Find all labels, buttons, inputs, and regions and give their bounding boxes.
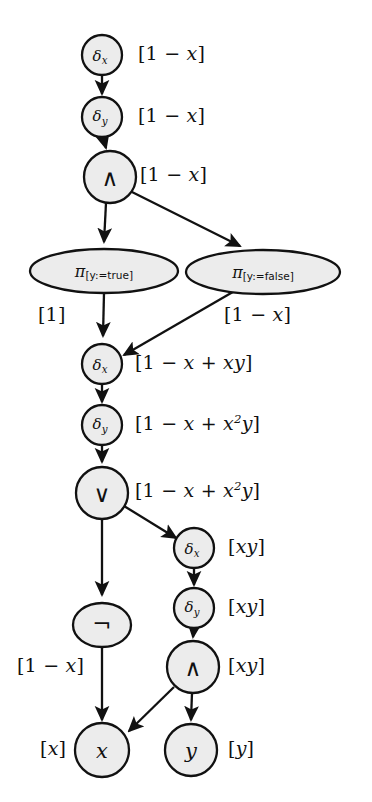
node-delta-y-3[interactable]: δy [174, 588, 214, 628]
edge-or-delta_x3 [124, 506, 176, 538]
annotation-delta-y-3: [xy] [228, 597, 265, 616]
annotation-var-y: [y] [228, 739, 254, 758]
annotation-and-2: [xy] [228, 656, 265, 675]
node-label-and-2: ∧ [185, 655, 202, 681]
node-label-and-1: ∧ [102, 165, 119, 191]
node-not[interactable]: ¬ [73, 603, 131, 647]
node-var-x[interactable]: x [75, 723, 129, 777]
node-delta-x-2[interactable]: δx [82, 344, 122, 384]
node-pi-y-false[interactable]: π[y:=false] [186, 250, 340, 294]
annotation-delta-y-1: [1 − x] [138, 106, 205, 125]
edge-delta_y-and1 [103, 137, 106, 148]
edge-and1-pi-false [130, 191, 240, 246]
edge-pi-false-delta_x2 [124, 289, 238, 355]
annotation-not: [1 − x] [17, 656, 84, 675]
annotation-pi-y-false: [1 − x] [224, 305, 291, 324]
edge-and2-var_x [129, 687, 174, 731]
annotation-var-x: [x] [40, 739, 66, 758]
node-and-1[interactable]: ∧ [84, 151, 136, 203]
node-or[interactable]: ∨ [76, 467, 128, 519]
annotation-or: [1 − x + x2y] [135, 481, 260, 500]
annotation-delta-x-3: [xy] [228, 537, 265, 556]
node-var-y[interactable]: y [165, 724, 217, 776]
annotation-delta-y-2: [1 − x + x2y] [135, 414, 260, 433]
node-delta-x-1[interactable]: δx [82, 35, 122, 75]
node-label-var-y: y [184, 739, 198, 763]
node-label-var-x: x [96, 739, 108, 763]
node-delta-x-3[interactable]: δx [174, 528, 214, 568]
node-and-2[interactable]: ∧ [167, 641, 219, 693]
edge-delta_y3-and2 [193, 628, 194, 637]
diagram-canvas: δx δy ∧ π[y:=true] π[y:=false] [0, 0, 372, 802]
edge-and1-pi-true [104, 203, 106, 242]
annotation-pi-y-true: [1] [38, 305, 66, 324]
node-delta-y-2[interactable]: δy [82, 405, 122, 445]
annotation-and-1: [1 − x] [140, 165, 207, 184]
edge-and2-var_y [191, 693, 192, 720]
node-delta-y-1[interactable]: δy [82, 97, 122, 137]
annotation-delta-x-1: [1 − x] [138, 44, 205, 63]
edge-pi-true-delta_x2 [103, 293, 104, 336]
node-label-or: ∨ [94, 481, 111, 507]
node-label-not: ¬ [92, 611, 111, 637]
annotation-delta-x-2: [1 − x + xy] [135, 353, 253, 372]
node-pi-y-true[interactable]: π[y:=true] [30, 249, 178, 293]
